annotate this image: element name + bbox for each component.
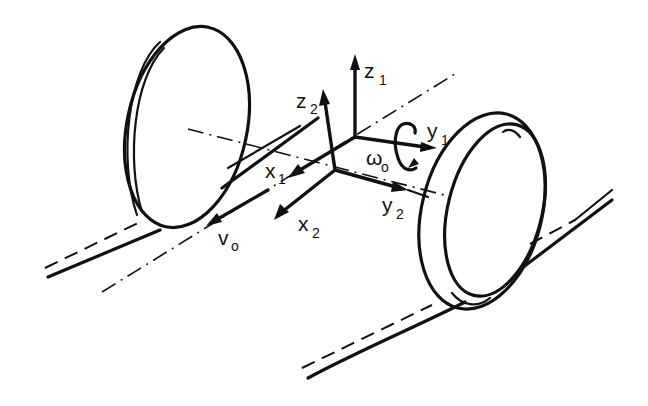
label-y1: y 1 <box>427 119 449 148</box>
z1-arrowhead <box>350 54 360 70</box>
label-z2-base: z <box>296 89 307 112</box>
velocity-arrow <box>206 190 268 226</box>
label-z2: z 2 <box>296 89 318 117</box>
right-rail-edge-solid <box>308 302 465 378</box>
label-v0-sub: o <box>231 238 239 254</box>
label-y2-base: y <box>382 193 393 216</box>
z2-axis <box>325 102 335 170</box>
label-omega0-sub: o <box>381 159 389 175</box>
spin-arrowhead <box>408 158 419 168</box>
label-x1-sub: 1 <box>278 171 286 187</box>
label-x1-base: x <box>265 159 276 182</box>
label-x2-base: x <box>298 212 309 235</box>
label-z1: z 1 <box>364 59 387 88</box>
x1-axis <box>300 137 355 170</box>
velocity-arrowhead <box>206 213 222 226</box>
z2-arrowhead <box>319 89 330 106</box>
label-v0: v o <box>218 226 239 254</box>
label-y1-base: y <box>427 119 438 142</box>
x1-arrowhead <box>288 164 305 178</box>
axle-shaft-upper <box>228 126 300 168</box>
left-wheel-rim-inner <box>134 48 164 212</box>
right-rail-edge-dashed <box>302 305 432 368</box>
right-wheel <box>400 99 565 322</box>
label-z1-sub: 1 <box>379 72 387 88</box>
y2-arrowhead <box>391 181 408 192</box>
right-wheel-outer-flange <box>400 99 565 322</box>
label-x2-sub: 2 <box>312 225 320 241</box>
label-y2: y 2 <box>382 193 404 222</box>
label-z2-sub: 2 <box>310 101 318 117</box>
label-x1: x 1 <box>265 159 286 187</box>
label-v0-base: v <box>218 226 229 249</box>
spin-arc-top <box>410 124 415 133</box>
label-z1-base: z <box>364 59 375 82</box>
left-rail-edge-solid <box>48 230 160 277</box>
label-omega0: ω o <box>366 146 389 175</box>
y1-arrowhead <box>420 142 437 152</box>
label-omega0-base: ω <box>366 146 382 169</box>
label-y1-sub: 1 <box>441 132 449 148</box>
right-wheel-tread-top <box>503 130 520 137</box>
label-x2: x 2 <box>298 212 320 241</box>
wheelset-diagram: z 1 y 1 z 2 x 1 ω o y 2 x 2 v o <box>0 0 648 406</box>
left-rail <box>45 222 160 277</box>
label-y2-sub: 2 <box>396 206 404 222</box>
